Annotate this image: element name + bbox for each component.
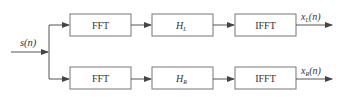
top-branch: FFT HL IFFT xL(n) [49,11,332,36]
output-label-left: xL(n) [300,11,321,23]
output-label-right: xR(n) [300,65,321,77]
block-diagram: s(n) FFT HL IFFT xL(n) FFT HR IFFT xR(n) [0,0,341,97]
fft-label-bottom: FFT [92,73,109,84]
ifft-label-top: IFFT [255,20,276,31]
ifft-label-bottom: IFFT [255,73,276,84]
bottom-branch: FFT HR IFFT xR(n) [49,65,332,89]
fft-label-top: FFT [92,20,109,31]
input-signal: s(n) [11,37,48,52]
input-label: s(n) [20,37,37,49]
